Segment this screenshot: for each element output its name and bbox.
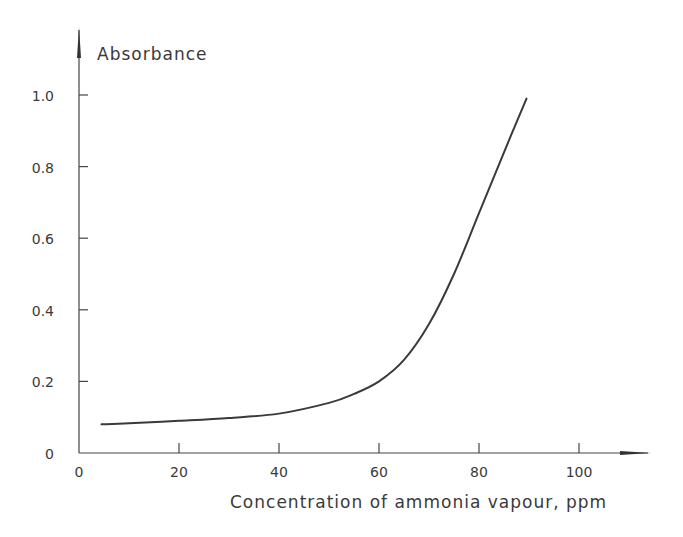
x-tick-label: 60: [370, 464, 388, 480]
absorbance-curve: [102, 99, 527, 425]
x-tick-label: 0: [75, 464, 84, 480]
ticks: 00.20.40.60.81.0020406080100: [32, 88, 593, 480]
x-axis-label: Concentration of ammonia vapour, ppm: [230, 492, 607, 512]
y-tick-label: 0.2: [32, 374, 54, 390]
y-tick-label: 1.0: [32, 88, 54, 104]
y-axis-label: Absorbance: [97, 44, 207, 64]
y-tick-label: 0.6: [32, 231, 54, 247]
x-tick-label: 20: [170, 464, 188, 480]
y-tick-label: 0.8: [32, 160, 54, 176]
x-axis-arrow-icon: [620, 451, 651, 455]
x-tick-label: 80: [470, 464, 488, 480]
y-axis-arrow-icon: [77, 27, 81, 58]
data-series: [102, 99, 527, 425]
x-tick-label: 40: [270, 464, 288, 480]
y-tick-label: 0: [45, 446, 54, 462]
x-tick-label: 100: [566, 464, 593, 480]
axes: [77, 27, 651, 455]
absorbance-chart: 00.20.40.60.81.0020406080100 Absorbance …: [0, 0, 683, 537]
y-tick-label: 0.4: [32, 303, 54, 319]
